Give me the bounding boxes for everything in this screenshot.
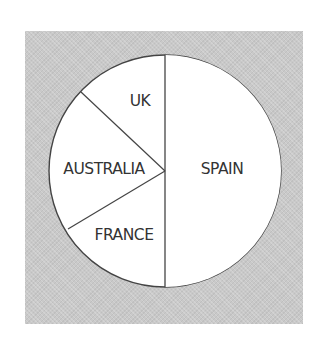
label-france: FRANCE xyxy=(95,226,154,244)
label-spain: SPAIN xyxy=(201,160,243,178)
label-uk: UK xyxy=(130,92,152,110)
pie-chart: UK AUSTRALIA FRANCE SPAIN xyxy=(0,0,322,342)
label-australia: AUSTRALIA xyxy=(63,160,145,178)
